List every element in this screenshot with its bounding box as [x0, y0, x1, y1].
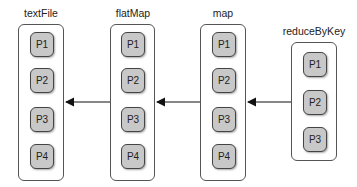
stage-label-flatmap: flatMap — [93, 7, 173, 19]
stage-label-textfile: textFile — [1, 7, 81, 19]
partition-p1: P1 — [212, 32, 236, 57]
partition-p2: P2 — [30, 68, 54, 93]
stage-label-map: map — [183, 7, 263, 19]
partition-p3: P3 — [30, 107, 54, 132]
partition-p4: P4 — [30, 144, 54, 169]
partition-p4: P4 — [121, 144, 145, 169]
stage-label-reducebykey: reduceByKey — [274, 25, 354, 37]
partition-p3: P3 — [121, 107, 145, 132]
partition-p1: P1 — [303, 52, 327, 77]
partition-p3: P3 — [303, 127, 327, 152]
stage-map: P1 P2 P3 P4 — [200, 24, 246, 181]
partition-p4: P4 — [212, 144, 236, 169]
partition-p1: P1 — [30, 32, 54, 57]
stage-reducebykey: P1 P2 P3 — [291, 42, 337, 161]
stage-textfile: P1 P2 P3 P4 — [18, 24, 64, 181]
partition-p2: P2 — [212, 68, 236, 93]
partition-p1: P1 — [121, 32, 145, 57]
partition-p2: P2 — [121, 68, 145, 93]
partition-p3: P3 — [212, 107, 236, 132]
partition-p2: P2 — [303, 90, 327, 115]
stage-flatmap: P1 P2 P3 P4 — [110, 24, 155, 181]
